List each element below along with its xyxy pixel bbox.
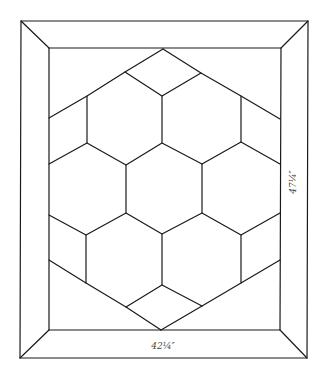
outer-frame	[20, 21, 308, 358]
top-diamond	[125, 72, 201, 96]
bottom-left-boundary	[49, 260, 161, 330]
frame	[20, 21, 308, 358]
bottom-diamond	[126, 285, 202, 307]
hex-edge	[49, 213, 280, 235]
inner-frame	[49, 48, 281, 330]
top-left-boundary	[49, 49, 163, 118]
width-dimension-label: 42¼″	[150, 341, 175, 351]
hexagon-pattern	[49, 49, 280, 330]
height-dimension-label: 47¼″	[288, 170, 298, 195]
miter-top-left	[21, 21, 49, 48]
glass-pattern-diagram: 42¼″ 47¼″	[0, 0, 327, 383]
miter-bottom-right	[280, 330, 307, 358]
miter-bottom-left	[20, 330, 49, 358]
bottom-right-boundary	[161, 260, 280, 330]
hex-edge	[49, 142, 280, 165]
miter-top-right	[281, 21, 308, 48]
top-right-boundary	[163, 49, 280, 119]
